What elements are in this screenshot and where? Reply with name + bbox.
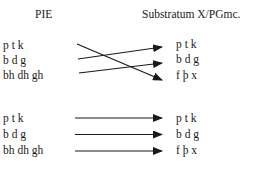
arrows-layer bbox=[0, 0, 257, 169]
arrow-bdg-to-ptk bbox=[78, 47, 162, 59]
arrow-bhdhgh-to-bdg bbox=[79, 63, 162, 73]
